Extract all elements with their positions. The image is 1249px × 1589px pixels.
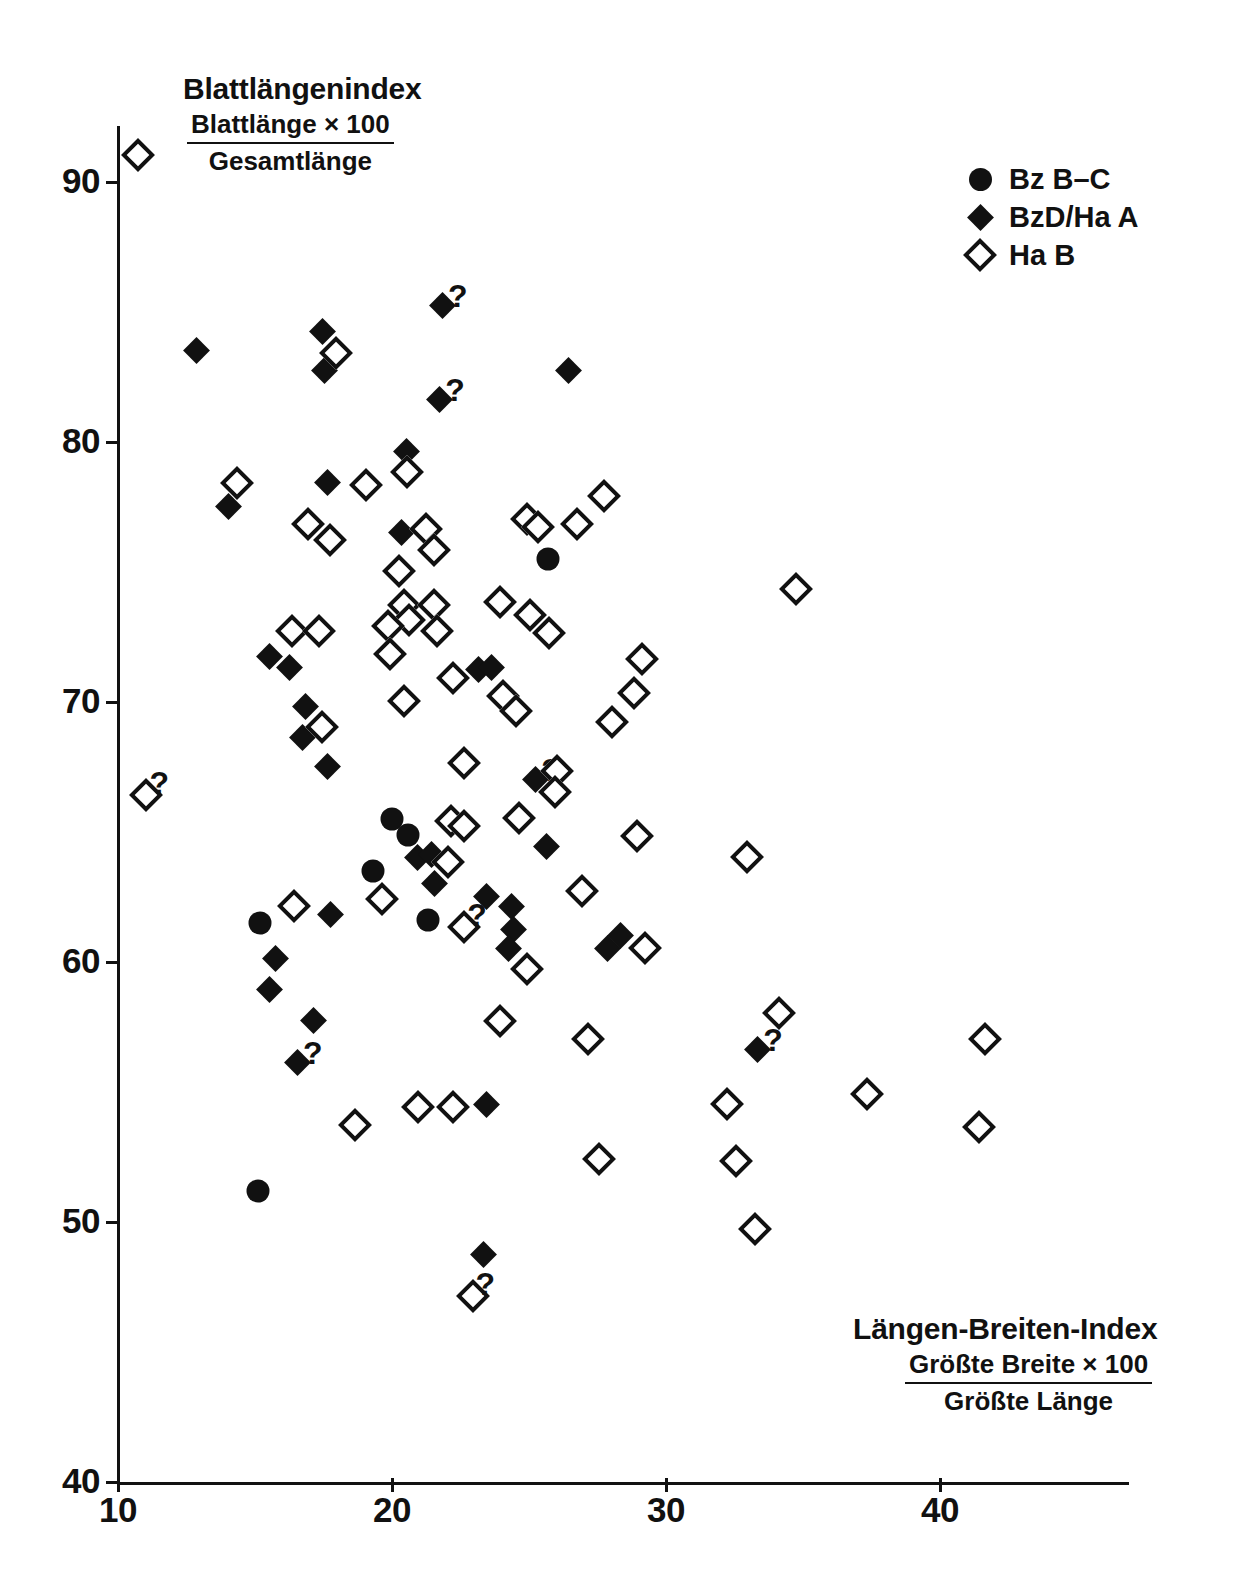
y-axis-tick-label: 50 bbox=[0, 1203, 100, 1238]
data-point-open-diamond bbox=[710, 1087, 744, 1121]
data-point-open-diamond bbox=[121, 138, 155, 172]
y-axis-tick-label: 60 bbox=[0, 943, 100, 978]
y-axis-fraction-denominator: Gesamtlänge bbox=[187, 144, 394, 177]
data-point-open-diamond bbox=[719, 1144, 753, 1178]
legend-item-0[interactable]: Bz B–C bbox=[963, 160, 1138, 198]
data-point-filled-circle bbox=[246, 1179, 269, 1202]
data-point-open-diamond bbox=[436, 661, 470, 695]
data-point-filled-diamond bbox=[473, 1091, 500, 1118]
data-point-filled-diamond bbox=[498, 893, 525, 920]
y-axis-tick bbox=[106, 181, 120, 184]
data-point-filled-circle bbox=[397, 823, 420, 846]
data-point-open-diamond bbox=[390, 455, 424, 489]
data-point-open-diamond bbox=[738, 1212, 772, 1246]
open-diamond-icon bbox=[963, 238, 997, 272]
data-point-open-diamond bbox=[587, 479, 621, 513]
y-axis-line bbox=[117, 126, 120, 1484]
data-point-filled-circle bbox=[249, 912, 272, 935]
data-point-open-diamond bbox=[401, 1090, 435, 1124]
data-point-filled-diamond bbox=[470, 1241, 497, 1268]
data-point-filled-circle bbox=[361, 860, 384, 883]
data-point-filled-circle bbox=[537, 548, 560, 571]
x-axis-tick-label: 30 bbox=[616, 1492, 716, 1527]
data-point-filled-diamond bbox=[257, 976, 284, 1003]
chart-page: Blattlängenindex Blattlänge × 100 Gesamt… bbox=[0, 0, 1249, 1589]
data-point-open-diamond bbox=[483, 585, 517, 619]
data-point-open-diamond bbox=[850, 1077, 884, 1111]
data-point-open-diamond bbox=[502, 801, 536, 835]
uncertain-marker-annotation: ? bbox=[476, 1268, 496, 1300]
x-axis-tick-label: 10 bbox=[68, 1492, 168, 1527]
chart-legend: Bz B–CBzD/Ha AHa B bbox=[963, 160, 1138, 274]
y-axis-title: Blattlängenindex Blattlänge × 100 Gesamt… bbox=[183, 72, 422, 177]
x-axis-line bbox=[117, 1482, 1129, 1485]
x-axis-title: Längen-Breiten-Index Größte Breite × 100… bbox=[853, 1312, 1157, 1417]
legend-item-1[interactable]: BzD/Ha A bbox=[963, 198, 1138, 236]
data-point-open-diamond bbox=[962, 1110, 996, 1144]
legend-marker-filled-circle-icon bbox=[963, 168, 997, 191]
data-point-open-diamond bbox=[625, 642, 659, 676]
y-axis-title-main: Blattlängenindex bbox=[183, 72, 422, 107]
data-point-filled-diamond bbox=[317, 901, 344, 928]
y-axis-tick bbox=[106, 961, 120, 964]
data-point-open-diamond bbox=[730, 840, 764, 874]
y-axis-tick-label: 80 bbox=[0, 423, 100, 458]
legend-label: Bz B–C bbox=[1009, 163, 1111, 196]
filled-diamond-icon bbox=[967, 204, 994, 231]
data-point-filled-diamond bbox=[495, 935, 522, 962]
filled-circle-icon bbox=[969, 168, 992, 191]
data-point-filled-diamond bbox=[183, 337, 210, 364]
data-point-open-diamond bbox=[373, 637, 407, 671]
data-point-filled-diamond bbox=[533, 833, 560, 860]
data-point-open-diamond bbox=[510, 952, 544, 986]
data-point-open-diamond bbox=[338, 1108, 372, 1142]
data-point-open-diamond bbox=[220, 466, 254, 500]
x-axis-tick-label: 40 bbox=[890, 1492, 990, 1527]
data-point-filled-diamond bbox=[388, 519, 415, 546]
legend-label: Ha B bbox=[1009, 239, 1075, 272]
data-point-filled-diamond bbox=[262, 945, 289, 972]
legend-marker-filled-diamond-icon bbox=[963, 208, 997, 227]
data-point-open-diamond bbox=[582, 1142, 616, 1176]
y-axis-tick bbox=[106, 701, 120, 704]
y-axis-title-fraction: Blattlänge × 100 Gesamtlänge bbox=[187, 109, 394, 177]
uncertain-marker-annotation: ? bbox=[445, 374, 465, 406]
x-axis-fraction-numerator: Größte Breite × 100 bbox=[905, 1349, 1152, 1384]
data-point-filled-circle bbox=[416, 909, 439, 932]
data-point-open-diamond bbox=[447, 746, 481, 780]
legend-item-2[interactable]: Ha B bbox=[963, 236, 1138, 274]
x-axis-tick-label: 20 bbox=[342, 1492, 442, 1527]
data-point-open-diamond bbox=[277, 889, 311, 923]
y-axis-fraction-numerator: Blattlänge × 100 bbox=[187, 109, 394, 144]
data-point-open-diamond bbox=[617, 676, 651, 710]
data-point-open-diamond bbox=[365, 882, 399, 916]
data-point-open-diamond bbox=[382, 554, 416, 588]
data-point-open-diamond bbox=[436, 1090, 470, 1124]
data-point-open-diamond bbox=[560, 507, 594, 541]
legend-label: BzD/Ha A bbox=[1009, 201, 1138, 234]
y-axis-tick-label: 70 bbox=[0, 683, 100, 718]
data-point-filled-diamond bbox=[300, 1007, 327, 1034]
legend-marker-open-diamond-icon bbox=[963, 243, 997, 267]
uncertain-marker-annotation: ? bbox=[149, 767, 169, 799]
x-axis-title-fraction: Größte Breite × 100 Größte Länge bbox=[905, 1349, 1152, 1417]
data-point-open-diamond bbox=[968, 1022, 1002, 1056]
data-point-filled-diamond bbox=[314, 469, 341, 496]
x-axis-title-main: Längen-Breiten-Index bbox=[853, 1312, 1157, 1347]
uncertain-marker-annotation: ? bbox=[303, 1037, 323, 1069]
data-point-open-diamond bbox=[387, 684, 421, 718]
y-axis-tick bbox=[106, 441, 120, 444]
uncertain-marker-annotation: ? bbox=[448, 280, 468, 312]
x-axis-fraction-denominator: Größte Länge bbox=[905, 1384, 1152, 1417]
data-point-open-diamond bbox=[349, 468, 383, 502]
data-point-open-diamond bbox=[595, 705, 629, 739]
data-point-open-diamond bbox=[302, 614, 336, 648]
data-point-open-diamond bbox=[779, 572, 813, 606]
data-point-open-diamond bbox=[620, 819, 654, 853]
data-point-filled-diamond bbox=[555, 357, 582, 384]
data-point-open-diamond bbox=[565, 874, 599, 908]
data-point-open-diamond bbox=[483, 1004, 517, 1038]
y-axis-tick-label: 90 bbox=[0, 163, 100, 198]
data-point-filled-diamond bbox=[314, 753, 341, 780]
uncertain-marker-annotation: ? bbox=[467, 899, 487, 931]
